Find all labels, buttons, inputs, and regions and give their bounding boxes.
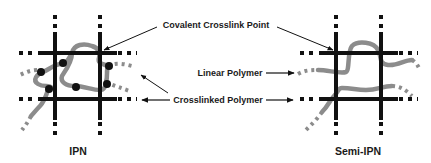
crosslinked-network: [319, 32, 398, 120]
ipn-panel: IPN: [18, 15, 137, 157]
annotations: Covalent Crosslink Point Linear Polymer …: [104, 20, 333, 105]
label-covalent-crosslink-point: Covalent Crosslink Point: [163, 20, 270, 30]
arrow-crosslink-point-right: [277, 27, 333, 50]
ipn-title: IPN: [69, 145, 87, 157]
semi-ipn-panel: Semi-IPN: [298, 15, 420, 157]
polymer-dashed-ends: [18, 64, 132, 130]
network-dashed-ends: [300, 15, 418, 140]
second-polymer-chains: [31, 44, 108, 116]
ipn-vs-semi-ipn-diagram: IPN Semi-IPN: [0, 0, 431, 163]
semi-ipn-title: Semi-IPN: [335, 145, 381, 157]
label-crosslinked-polymer: Crosslinked Polymer: [173, 95, 263, 105]
label-linear-polymer: Linear Polymer: [197, 68, 263, 78]
arrow-crosslink-point-left: [104, 27, 157, 50]
arrow-crosslinked-polymer-diagonal: [141, 75, 168, 93]
